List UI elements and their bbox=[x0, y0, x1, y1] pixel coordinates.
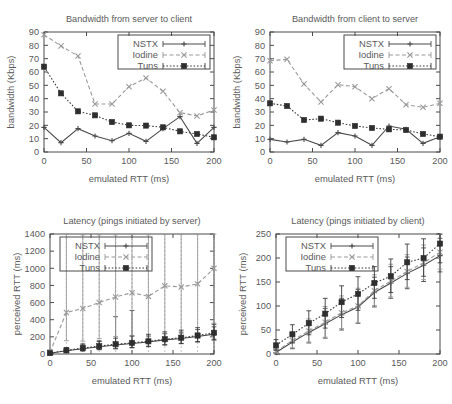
legend-label-tuns: Tuns bbox=[364, 60, 385, 71]
x-tick-label: 100 bbox=[121, 156, 136, 166]
series-line-iodine bbox=[270, 59, 440, 107]
series-tuns bbox=[273, 234, 442, 350]
data-point bbox=[113, 342, 118, 347]
y-tick-label: 600 bbox=[30, 298, 45, 308]
data-point bbox=[386, 127, 391, 132]
error-bar bbox=[179, 234, 184, 333]
y-axis: 050100150200250 bbox=[256, 229, 440, 359]
x-tick-label: 0 bbox=[273, 358, 278, 368]
data-point bbox=[58, 91, 63, 96]
y-tick-label: 90 bbox=[29, 27, 39, 37]
data-point bbox=[352, 133, 357, 138]
data-point bbox=[92, 133, 97, 138]
legend-marker-tuns bbox=[181, 63, 186, 68]
data-point bbox=[160, 89, 165, 94]
data-point bbox=[355, 291, 360, 296]
error-bar bbox=[130, 234, 135, 335]
x-tick-label: 50 bbox=[312, 358, 322, 368]
data-point bbox=[386, 86, 391, 91]
legend-marker-nstx bbox=[407, 41, 412, 46]
y-tick-label: 80 bbox=[255, 41, 265, 51]
y-tick-label: 20 bbox=[255, 121, 265, 131]
data-point bbox=[109, 138, 114, 143]
legend-label-iodine: Iodine bbox=[74, 251, 100, 262]
error-bars-iodine bbox=[48, 234, 217, 354]
chart-title: Bandwidth from server to client bbox=[66, 14, 193, 24]
data-point bbox=[64, 348, 69, 353]
chart-title: Bandwidth from client to server bbox=[292, 14, 418, 24]
data-point bbox=[318, 116, 323, 121]
series-iodine bbox=[267, 57, 442, 110]
legend-label-tuns: Tuns bbox=[80, 262, 101, 273]
y-tick-label: 70 bbox=[29, 54, 39, 64]
data-point bbox=[267, 137, 272, 142]
y-tick-label: 10 bbox=[29, 134, 39, 144]
data-point bbox=[97, 344, 102, 349]
error-bar bbox=[212, 234, 217, 323]
data-point bbox=[143, 75, 148, 80]
y-tick-label: 1200 bbox=[25, 246, 45, 256]
legend: NSTXIodineTuns bbox=[286, 237, 378, 273]
y-tick-label: 40 bbox=[29, 94, 39, 104]
legend-label-nstx: NSTX bbox=[359, 38, 385, 49]
legend-label-tuns: Tuns bbox=[306, 262, 327, 273]
legend-marker-tuns bbox=[407, 63, 412, 68]
legend-marker-nstx bbox=[123, 243, 128, 248]
y-tick-label: 50 bbox=[261, 325, 271, 335]
x-tick-label: 150 bbox=[165, 358, 180, 368]
legend-marker-nstx bbox=[181, 41, 186, 46]
data-point bbox=[267, 101, 272, 106]
y-axis: 0200400600800100012001400 bbox=[25, 229, 214, 359]
x-tick-label: 150 bbox=[164, 156, 179, 166]
legend: NSTXIodineTuns bbox=[344, 35, 436, 71]
chart-title: Latency (pings initiated by server) bbox=[63, 216, 200, 226]
data-point bbox=[437, 134, 442, 139]
data-point bbox=[352, 123, 357, 128]
y-tick-label: 0 bbox=[266, 349, 271, 359]
y-tick-label: 50 bbox=[29, 81, 39, 91]
markers-iodine bbox=[41, 32, 216, 119]
panel-latency-client: Latency (pings initiated by client)05010… bbox=[226, 202, 452, 404]
y-tick-label: 0 bbox=[34, 147, 39, 157]
y-tick-label: 50 bbox=[255, 81, 265, 91]
data-point bbox=[126, 131, 131, 136]
y-tick-label: 60 bbox=[29, 67, 39, 77]
x-axis-label: emulated RTT (ms) bbox=[315, 173, 395, 184]
data-point bbox=[194, 131, 199, 136]
x-tick-label: 200 bbox=[206, 358, 221, 368]
y-tick-label: 30 bbox=[29, 107, 39, 117]
data-point bbox=[160, 125, 165, 130]
y-tick-label: 100 bbox=[256, 301, 271, 311]
data-point bbox=[75, 109, 80, 114]
data-point bbox=[284, 139, 289, 144]
y-tick-label: 250 bbox=[256, 229, 271, 239]
y-tick-label: 20 bbox=[29, 121, 39, 131]
figure-root: Bandwidth from server to client010203040… bbox=[0, 0, 452, 404]
data-point bbox=[41, 64, 46, 69]
data-point bbox=[92, 113, 97, 118]
x-tick-label: 0 bbox=[267, 156, 272, 166]
legend-label-nstx: NSTX bbox=[75, 240, 101, 251]
y-axis: 0102030405060708090 bbox=[255, 27, 440, 157]
data-point bbox=[146, 339, 151, 344]
x-axis-label: emulated RTT (ms) bbox=[92, 375, 172, 386]
data-point bbox=[388, 274, 393, 279]
data-point bbox=[211, 330, 216, 335]
data-point bbox=[421, 255, 426, 260]
legend-label-nstx: NSTX bbox=[301, 240, 327, 251]
y-axis: 0102030405060708090 bbox=[29, 27, 214, 157]
data-point bbox=[58, 43, 63, 48]
data-point bbox=[318, 99, 323, 104]
x-axis-label: emulated RTT (ms) bbox=[318, 375, 398, 386]
y-tick-label: 60 bbox=[255, 67, 265, 77]
data-point bbox=[323, 311, 328, 316]
data-point bbox=[284, 103, 289, 108]
x-tick-label: 0 bbox=[41, 156, 46, 166]
data-point bbox=[372, 280, 377, 285]
chart-top_left: Bandwidth from server to client010203040… bbox=[0, 0, 226, 202]
y-axis-label: bandwidth (Kbps) bbox=[5, 56, 16, 129]
legend-label-nstx: NSTX bbox=[133, 38, 159, 49]
data-point bbox=[335, 120, 340, 125]
data-point bbox=[129, 340, 134, 345]
legend-label-iodine: Iodine bbox=[358, 49, 384, 60]
